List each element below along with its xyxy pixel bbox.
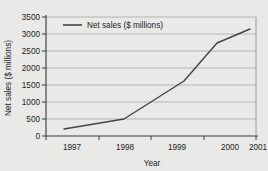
y-tick-label-2000: 2000: [22, 64, 41, 73]
chart-canvas: 3500 3000 2500 2000 1500 1000 500 0 1997…: [0, 0, 268, 171]
legend-label-net-sales: Net sales ($ millions): [87, 21, 163, 30]
x-axis-title: Year: [144, 159, 161, 168]
y-tick-label-3000: 3000: [22, 30, 41, 39]
x-tick-label-1999: 1999: [168, 143, 187, 152]
y-tick-label-3500: 3500: [22, 13, 41, 22]
x-tick-label-1997: 1997: [63, 143, 82, 152]
line-chart: 3500 3000 2500 2000 1500 1000 500 0 1997…: [0, 0, 268, 171]
y-tick-label-0: 0: [35, 132, 40, 141]
y-tick-label-1500: 1500: [22, 81, 41, 90]
y-tick-label-1000: 1000: [22, 98, 41, 107]
y-tick-label-2500: 2500: [22, 47, 41, 56]
x-tick-label-1998: 1998: [116, 143, 135, 152]
x-tick-label-2000: 2000: [221, 143, 240, 152]
y-tick-label-500: 500: [26, 115, 40, 124]
x-tick-label-2001: 2001: [249, 143, 268, 152]
y-axis-title: Net sales ($ millions): [4, 40, 13, 116]
plot-area: [46, 17, 256, 136]
